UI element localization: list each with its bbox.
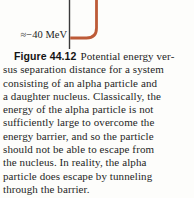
potential-energy-curve	[70, 0, 96, 38]
figure-caption: Figure 44.12Potential energy ver- sus se…	[3, 50, 192, 196]
caption-line: sufficiently large to overcome the	[3, 116, 192, 129]
figure-plot: ≈−40 MeV	[0, 0, 194, 50]
caption-text: Potential energy ver-	[80, 50, 174, 62]
caption-line: should not be able to escape from	[3, 143, 192, 156]
caption-line: Figure 44.12Potential energy ver-	[3, 50, 192, 63]
caption-line: through the barrier.	[3, 183, 192, 196]
figure-number-label: Figure 44.12	[14, 50, 76, 62]
caption-line: a daughter nucleus. Classically, the	[3, 90, 192, 103]
energy-level-annotation: ≈−40 MeV	[0, 29, 67, 41]
caption-line: energy of the alpha particle is not	[3, 103, 192, 116]
caption-line: the nucleus. In reality, the alpha	[3, 156, 192, 169]
caption-line: particle does escape by tunneling	[3, 170, 192, 183]
potential-energy-plot	[0, 0, 194, 50]
caption-line: sus separation distance for a system	[3, 63, 192, 76]
textbook-figure-snippet: ≈−40 MeV Figure 44.12Potential energy ve…	[0, 0, 194, 198]
caption-line: energy barrier, and so the particle	[3, 130, 192, 143]
caption-line: consisting of an alpha particle and	[3, 77, 192, 90]
